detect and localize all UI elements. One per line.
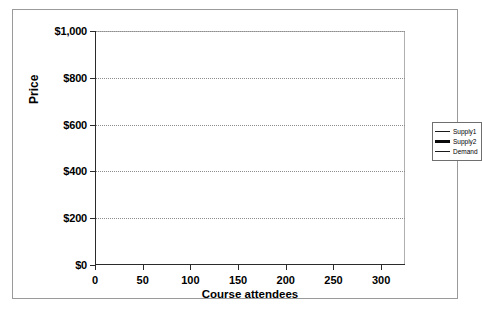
x-tick-label: 50 [137, 274, 149, 286]
y-axis-tick-labels: $0$200$400$600$800$1,000 [13, 31, 95, 265]
legend-item-label: Demand [453, 148, 478, 155]
y-tick-label: $800 [63, 72, 87, 84]
x-tick-label: 250 [324, 274, 342, 286]
gridline [95, 78, 405, 79]
x-axis-title: Course attendees [95, 288, 405, 300]
gridline [95, 218, 405, 219]
gridline [95, 171, 405, 172]
y-axis-line [95, 31, 96, 265]
x-tick-label: 150 [229, 274, 247, 286]
gridline [95, 125, 405, 126]
legend-item: Supply2 [435, 137, 478, 146]
x-tick-label: 300 [372, 274, 390, 286]
legend-item-label: Supply2 [453, 138, 477, 145]
legend-swatch-icon [435, 140, 450, 143]
plot-background [95, 31, 405, 265]
x-tick-label: 100 [181, 274, 199, 286]
legend-item: Supply1 [435, 127, 478, 136]
y-tick-label: $0 [75, 259, 87, 271]
legend-item: Demand [435, 147, 478, 156]
gridline [95, 31, 405, 32]
legend-swatch-icon [435, 151, 450, 152]
chart-frame: Price $0$200$400$600$800$1,000 050100150… [12, 9, 458, 299]
chart-legend: Supply1Supply2Demand [432, 122, 482, 161]
legend-item-label: Supply1 [453, 128, 477, 135]
y-tick-label: $1,000 [55, 25, 87, 37]
y-tick-label: $200 [63, 212, 87, 224]
y-tick-label: $600 [63, 119, 87, 131]
x-tick-label: 200 [277, 274, 295, 286]
plot-area [95, 31, 405, 265]
legend-swatch-icon [435, 131, 450, 132]
x-axis-tick-labels: 050100150200250300 [95, 265, 405, 287]
y-tick-label: $400 [63, 165, 87, 177]
x-tick-label: 0 [92, 274, 98, 286]
